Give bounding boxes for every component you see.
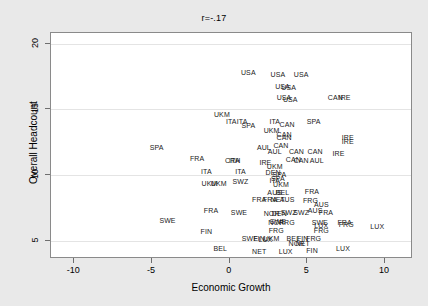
x-tick-label--5: -5 [131,265,171,275]
chart-title: r=-.17 [0,13,428,23]
data-point-label: USA [283,95,298,102]
data-point-label: USA [270,70,285,77]
data-point-label: IRE [339,94,351,101]
data-point-label: FIN [201,228,213,235]
data-point-label: SWE [231,208,247,215]
data-point-label: UKM [273,181,289,188]
data-point-label: SPA [150,144,164,151]
data-point-label: ITA [269,118,280,125]
gridline-y-10 [51,175,411,176]
data-point-label: ITA [235,167,246,174]
data-point-label: FRA [190,154,204,161]
y-axis-title: Overall Headcount [28,63,39,223]
data-point-label: FRA [305,187,319,194]
data-point-label: IRE [332,149,344,156]
data-point-label: SPA [241,121,255,128]
data-point-label: USA [281,83,296,90]
data-point-label: AUS [280,195,295,202]
data-point-label: FRG [339,220,354,227]
y-tick-mark [45,43,50,44]
x-tick-mark [306,258,307,263]
gridline-y-5 [51,241,411,242]
data-point-label: ITA [229,157,240,164]
data-point-label: CAN [289,148,304,155]
data-point-label: SPA [307,118,321,125]
x-tick-mark [384,258,385,263]
x-tick-label-5: 5 [286,265,326,275]
plot-area: USAUSAUSAUSAUSAUSAUSACANIREUKMITAITASPAI… [50,32,412,258]
y-tick-mark [45,174,50,175]
data-point-label: CAN [308,148,323,155]
data-point-label: FIN [306,246,318,253]
data-point-label: UKM [211,179,227,186]
x-tick-label-0: 0 [209,265,249,275]
gridline-y-20 [51,44,411,45]
data-point-label: CAN [277,133,292,140]
data-point-label: FRA [319,208,333,215]
y-tick-label-5: 5 [30,232,40,248]
data-point-label: USA [241,69,256,76]
x-tick-mark [229,258,230,263]
data-point-label: LUX [279,248,293,255]
data-point-label: LUX [370,223,384,230]
data-point-label: IRE [342,137,354,144]
y-tick-mark [45,108,50,109]
data-point-label: NET [252,248,266,255]
data-point-label: LUX [336,245,350,252]
data-point-label: ITA [226,118,237,125]
data-point-label: FRG [269,227,284,234]
data-point-label: FRA [204,207,218,214]
data-point-label: CAN [294,157,309,164]
data-point-label: SWZ [293,208,309,215]
gridline-y-15 [51,109,411,110]
data-point-label: AUL [268,148,282,155]
data-point-label: FRG [280,219,295,226]
data-point-label: SWZ [233,178,249,185]
data-point-label: AUL [310,157,324,164]
data-point-label: CAN [280,120,295,127]
data-point-label: BEL [214,245,228,252]
x-tick-mark [73,258,74,263]
x-axis-title: Economic Growth [50,282,412,293]
scatter-plot-screenshot: r=-.17 USAUSAUSAUSAUSAUSAUSACANIREUKMITA… [0,0,428,306]
x-tick-label-10: 10 [364,265,404,275]
x-tick-mark [151,258,152,263]
data-point-label: USA [294,70,309,77]
y-tick-mark [45,240,50,241]
data-point-label: FRG [314,227,329,234]
data-point-label: CAN [273,141,288,148]
y-tick-label-20: 20 [30,35,40,51]
data-point-label: SWE [159,216,175,223]
x-tick-label--10: -10 [53,265,93,275]
data-point-label: UKM [264,234,280,241]
data-point-label: ITA [201,167,212,174]
